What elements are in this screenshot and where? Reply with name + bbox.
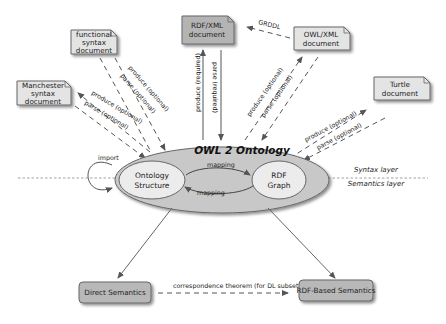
rdf-graph-line1: RDF [271,171,286,180]
grddl-label: GRDDL [258,18,282,30]
grddl-edge [247,27,290,38]
semantics-layer-label: Semantics layer [348,180,405,188]
owlxml-doc-line1: OWL/XML [304,30,338,39]
correspondence-label: correspondence theorem (for DL subset) [173,282,301,290]
ontology-structure-line2: Structure [135,181,170,190]
rdfxml-parse-label: parse (required) [211,62,219,113]
mapping-top-label: mapping [207,161,235,169]
functional-doc-line3: document [76,46,112,55]
ontology-title: OWL 2 Ontology [194,144,291,156]
rdf-semantics-arrow [268,208,335,278]
turtle-doc-line1: Turtle [389,80,411,89]
rdfxml-produce-label: produce (required) [194,53,202,112]
owl2-diagram: Syntax layer Semantics layer produce (op… [0,0,446,324]
import-label: import [98,154,119,162]
mapping-bottom-label: mapping [197,189,225,197]
ontology-structure-node [119,161,185,199]
ontology-structure-line1: Ontology [135,171,170,180]
direct-semantics-arrow [118,208,172,278]
rdf-based-semantics-label: RDF-Based Semantics [297,286,376,295]
rdf-graph-line2: Graph [267,181,290,190]
manchester-doc-line3: document [25,97,61,106]
syntax-layer-label: Syntax layer [354,166,399,174]
import-loop-arrow [88,162,112,190]
direct-semantics-label: Direct Semantics [84,288,146,297]
rdfxml-doc-line1: RDF/XML [191,21,223,30]
rdf-graph-node [252,161,306,199]
owlxml-doc-line2: document [303,39,339,48]
turtle-doc-line2: document [382,89,418,98]
rdfxml-doc-line2: document [189,30,225,39]
